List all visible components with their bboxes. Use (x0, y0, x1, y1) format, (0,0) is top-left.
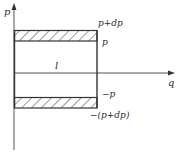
p-axis-arrow-icon (12, 3, 17, 10)
q-axis-label: q (168, 78, 174, 88)
top-hatched-band (15, 31, 98, 42)
q-axis (14, 71, 175, 76)
diagram-canvas (0, 0, 176, 159)
bottom-band-lower-label: −(p+dp) (90, 111, 129, 120)
q-axis-arrow-icon (168, 71, 175, 76)
p-axis-label: p (4, 7, 10, 17)
bottom-hatched-band (15, 98, 98, 109)
bottom-band-upper-label: −p (102, 90, 115, 99)
top-band-lower-label: p (102, 38, 108, 47)
top-band-upper-label: p+dp (98, 19, 123, 28)
length-label: l (55, 61, 58, 71)
